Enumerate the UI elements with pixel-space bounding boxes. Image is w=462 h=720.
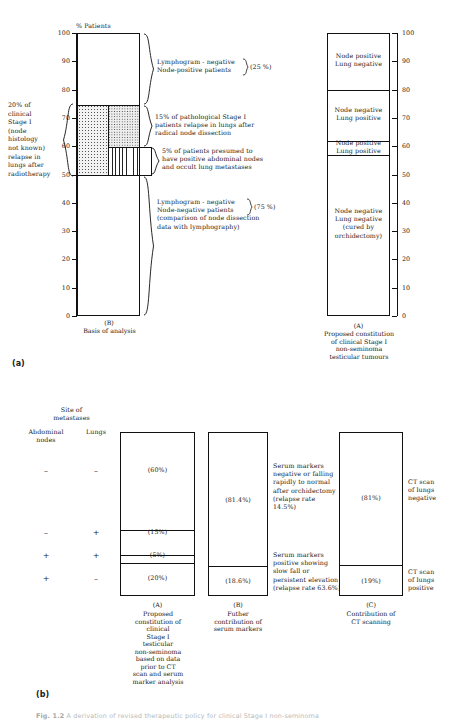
annotation-brace-2 [143,105,153,147]
annotation-line: data with lymphography) [157,223,297,231]
row-sign-nodes: + [18,574,74,583]
left-note-line: Stage I [8,118,62,127]
axis-tick [392,146,397,147]
annotation-2-text: 15% of pathological Stage I patients rel… [155,113,290,138]
axis-tick-label: 20 [46,255,70,263]
panel-a-letter: (a) [12,359,25,368]
caption-line: CT scanning [330,618,412,626]
segment-label-line: Lung negative [327,215,390,223]
axis-tick-label: 80 [46,86,70,94]
row-sign-lungs: + [76,528,116,537]
axis-tick [392,316,397,317]
axis-tick [392,288,397,289]
panel-b-b-segment-value: (18.6%) [208,577,268,585]
left-note-line: not known) [8,144,62,153]
panel-a-y-axis-title: % Patients [76,22,111,30]
annotation-4-value: (75 %) [254,203,276,211]
panel-a-b-caption: Basis of analysis [62,327,157,335]
panel-a-a-segment-label: Node positive Lung positive [327,139,390,155]
row-sign-nodes: – [18,466,74,475]
caption-line: Futher [198,610,278,618]
panel-b-b-segment-value: (81.4%) [208,496,268,504]
left-note-line: relapse in [8,153,62,162]
axis-tick-label: 50 [402,171,410,179]
panel-a-a-letter: (A) [327,322,390,330]
note-line: CT scan [408,478,460,486]
col-header-line: nodes [18,436,74,444]
segment-label-line: (cured by [327,223,390,231]
panel-b-b-letter: (B) [208,601,268,609]
caption-line: Contribution of [330,610,412,618]
col-header-line: Abdominal [18,428,74,436]
panel-a-a-segment-label: Node positive Lung negative [327,52,390,68]
caption-line: non-seminoma [300,345,418,353]
panel-b-site-title: Site of metastases [24,406,119,422]
axis-tick-label: 10 [402,284,410,292]
annotation-line: and occult lung metastases [162,163,297,171]
left-note-line: 20% of [8,101,62,110]
axis-tick [392,231,397,232]
panel-a-a-segment-label: Node negative Lung negative (cured by or… [327,207,390,240]
caption-line: marker analysis [114,678,202,686]
figure-caption: Fig. 1.2 A derivation of revised therape… [36,712,456,720]
panel-a-a-y-axis [397,33,398,316]
annotation-line: Node-negative patients [157,206,297,214]
annotation-brace-1 [143,33,155,105]
panel-b-a-bar [120,432,195,596]
caption-line: testicular tumours [300,353,418,361]
row-sign-nodes: – [18,528,74,537]
panel-b-col-lungs: Lungs [76,428,116,436]
axis-tick-label: 90 [402,57,410,65]
panel-b-col-abdominal-nodes: Abdominal nodes [18,428,74,444]
annotation-line: (comparison of node dissection [157,214,297,222]
annotation-4-inner-brace [246,198,253,216]
caption-line: non-seminoma [114,648,202,656]
panel-b-a-segment-value: (20%) [120,574,195,582]
axis-tick-label: 10 [46,284,70,292]
axis-tick [392,175,397,176]
note-line: CT scan [408,568,460,576]
panel-b-a-segment-value: (60%) [120,466,195,474]
segment-label-line: Node negative [327,207,390,215]
segment-label-line: orchidectomy) [327,232,390,240]
panel-b-c-caption: Contribution of CT scanning [330,610,412,625]
segment-divider [77,175,140,176]
panel-a-a-segment-label: Node negative Lung positive [327,106,390,122]
note-line: negative [408,494,460,502]
segment-divider [208,566,268,567]
axis-tick-label: 30 [402,227,410,235]
site-title-line: metastases [24,414,119,422]
segment-label-line: Lung positive [327,114,390,122]
row-sign-lungs: + [76,551,116,560]
axis-tick-label: 100 [402,29,414,37]
caption-line: contribution of [198,618,278,626]
panel-b-c-bar [339,432,403,596]
site-title-line: Site of [24,406,119,414]
segment-divider-vertical [108,105,109,176]
segment-divider [108,147,140,148]
axis-tick-label: 40 [402,199,410,207]
annotation-brace-4 [143,176,155,316]
panel-b-a-caption: Proposed constitution of clinical Stage … [114,610,202,685]
annotation-brace-3 [151,147,160,175]
panel-b-c-segment-value: (19%) [339,577,403,585]
panel-a-a-caption: Proposed constitution of clinical Stage … [300,330,418,360]
row-sign-nodes: + [18,551,74,560]
annotation-line: Lymphogram - negative [157,198,297,206]
axis-tick-label: 90 [46,57,70,65]
annotation-line: 15% of pathological Stage I [155,113,290,121]
caption-line: scan and serum [114,670,202,678]
caption-line: Proposed constitution [300,330,418,338]
annotation-4-text: Lymphogram - negative Node-negative pati… [157,198,297,231]
panel-a-a-bar [327,33,390,316]
annotation-3-text: 5% of patients presumed to have positive… [162,147,297,172]
annotation-line: radical node dissection [155,129,290,137]
caption-line: constitution of [114,618,202,626]
left-note-line: radiotherapy [8,170,62,179]
panel-a-b-letter: (B) [78,319,140,327]
axis-tick-label: 0 [46,312,70,320]
caption-line: based on data [114,655,202,663]
axis-tick-label: 100 [46,29,70,37]
panel-b-letter: (b) [36,690,49,699]
annotation-line: 5% of patients presumed to [162,147,297,155]
